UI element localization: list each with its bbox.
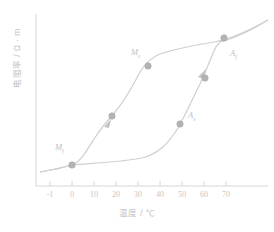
point-label-mf: Mf [55,142,64,154]
x-axis-ticks [50,181,226,186]
x-tick-label: 70 [216,190,236,199]
x-tick-label: 50 [172,190,192,199]
chart-figure: 电阻率 / Ω · m 温度 / ℃ -1 0 10 20 30 40 50 6… [0,0,274,232]
data-point-markers [69,35,227,168]
x-tick-label: 10 [84,190,104,199]
y-axis-label: 电阻率 / Ω · m [10,16,22,100]
marker-af [221,35,227,41]
x-axis-label: 温度 / ℃ [0,206,274,218]
x-tick-label: 30 [128,190,148,199]
curve-lower-branch [40,20,268,172]
x-tick-label: -1 [40,190,60,199]
marker-mid-lower [202,75,208,81]
point-label-mf-sub: f [62,148,64,154]
point-label-as: As [188,110,196,122]
marker-ms [145,63,151,69]
x-tick-label: 40 [150,190,170,199]
point-label-ms: Ms [131,47,140,59]
point-label-af-sub: f [235,54,237,60]
point-label-as-sub: s [193,116,195,122]
marker-mid-upper [109,113,115,119]
marker-mf [69,162,75,168]
point-label-ms-sub: s [138,53,140,59]
marker-as [177,121,183,127]
x-tick-label: 60 [194,190,214,199]
x-tick-label: 0 [62,190,82,199]
x-tick-label: 20 [106,190,126,199]
point-label-af: Af [230,48,237,60]
curve-upper-branch [40,20,268,172]
